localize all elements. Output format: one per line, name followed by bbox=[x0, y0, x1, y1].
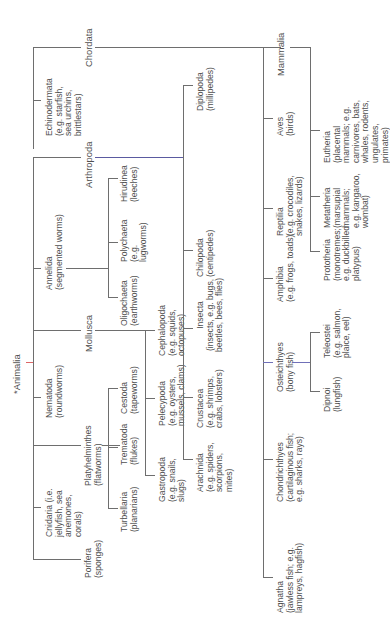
branch-pelecypoda bbox=[145, 398, 155, 399]
branch-diplopoda bbox=[183, 85, 193, 86]
osteichthyes-spine bbox=[310, 332, 311, 392]
label-metatheria: Metatheria (marsupial mammals; e.g. kang… bbox=[323, 173, 371, 228]
label-chondrichthyes: Chondrichthyes (cartilaginous fish; e.g.… bbox=[276, 433, 305, 502]
branch-crustacea bbox=[183, 397, 193, 398]
arthropoda-stem bbox=[95, 157, 183, 158]
animalia-spine-2 bbox=[33, 157, 34, 560]
platyhelminthes-stem bbox=[102, 445, 120, 446]
label-dipnoi: Dipnoi (lungfish) bbox=[323, 377, 342, 412]
branch-chilopoda bbox=[183, 250, 193, 251]
branch-eutheria bbox=[310, 130, 320, 131]
branch-insecta bbox=[183, 328, 193, 329]
branch-arachnida bbox=[183, 459, 193, 460]
animalia-spine bbox=[33, 47, 34, 149]
branch-arthropoda bbox=[33, 157, 81, 158]
label-aves: Aves (birds) bbox=[276, 112, 295, 136]
branch-polychaeta bbox=[108, 242, 118, 243]
label-mammalia: Mammalia bbox=[276, 33, 286, 76]
label-diplopoda: Diplopoda (millipedes) bbox=[196, 67, 215, 111]
label-chordata: Chordata bbox=[84, 28, 94, 67]
branch-oligochaeta bbox=[108, 297, 118, 298]
label-hirudinea: Hirudinea (leeches) bbox=[120, 165, 139, 202]
mollusca-stem bbox=[95, 330, 145, 331]
branch-annelida bbox=[33, 268, 41, 269]
arthropoda-spine bbox=[183, 85, 184, 460]
label-teleostei: Teleostei (e.g. salmon, plaice, eel) bbox=[323, 308, 352, 358]
branch-hirudinea bbox=[108, 178, 118, 179]
label-nematoda: Nematoda (roundworms) bbox=[45, 365, 64, 418]
label-osteichthyes: Osteichthyes (bony fish) bbox=[276, 342, 295, 392]
branch-nematoda bbox=[33, 397, 41, 398]
label-animalia: *Animalia bbox=[12, 354, 22, 394]
label-cestoda: Cestoda (tapeworms) bbox=[120, 366, 139, 414]
mammalia-stem bbox=[290, 47, 310, 48]
branch-prototheria bbox=[310, 251, 320, 252]
label-crustacea: Crustacea (e.g. shrimps, crabs, lobsters… bbox=[196, 369, 225, 428]
label-turbellaria: Turbellaria (planarians) bbox=[120, 487, 139, 532]
branch-trematoda bbox=[108, 447, 118, 448]
chordata-stem bbox=[95, 47, 263, 48]
branch-platyhelminthes bbox=[33, 445, 81, 446]
label-echinodermata: Echinodermata (e.g. starfish, sea urchin… bbox=[45, 78, 83, 136]
label-porifera: Porifera (sponges) bbox=[84, 540, 103, 578]
branch-agnatha bbox=[263, 577, 273, 578]
branch-cestoda bbox=[108, 388, 118, 389]
label-annelida: Annelida (segmented worms) bbox=[45, 214, 64, 290]
branch-cnidaria bbox=[33, 507, 41, 508]
annelida-spine bbox=[108, 178, 109, 298]
branch-turbellaria bbox=[108, 508, 118, 509]
label-mollusca: Mollusca bbox=[84, 315, 94, 352]
branch-cephalopoda bbox=[145, 330, 155, 331]
label-trematoda: Trematoda (flukes) bbox=[120, 424, 139, 465]
branch-osteichthyes bbox=[263, 362, 273, 363]
label-arthropoda: Arthropoda bbox=[84, 142, 94, 188]
branch-chordata bbox=[33, 47, 81, 48]
label-polychaeta: Polychaeta (e.g. lugworms) bbox=[120, 219, 149, 262]
chordata-spine bbox=[263, 47, 264, 578]
branch-amphibia bbox=[263, 278, 273, 279]
branch-aves bbox=[263, 118, 273, 119]
platyhelminthes-spine bbox=[108, 388, 109, 509]
branch-gastropoda bbox=[145, 475, 155, 476]
label-cnidaria: Cnidaria (i.e. jellyfish, sea anemones, … bbox=[45, 488, 83, 537]
annelida-stem bbox=[66, 268, 108, 269]
branch-metatheria bbox=[310, 196, 320, 197]
label-platyhelminthes: Platyhelminthes (flatworms) bbox=[84, 425, 103, 486]
label-amphibia: Amphibia (e.g. frogs, toads) bbox=[276, 235, 295, 302]
label-eutheria: Eutheria (placental mammals; e.g. carniv… bbox=[323, 100, 390, 163]
label-chilopoda: Chilopoda (centipedes) bbox=[196, 230, 215, 277]
branch-reptilia bbox=[263, 208, 273, 209]
branch-echinodermata bbox=[33, 100, 41, 101]
branch-dipnoi bbox=[310, 391, 320, 392]
branch-porifera bbox=[33, 559, 81, 560]
osteichthyes-stem bbox=[292, 362, 310, 363]
branch-teleostei bbox=[310, 332, 320, 333]
mollusca-spine bbox=[145, 330, 146, 476]
label-reptilia: Reptilia (e.g. crocodiles, snakes, lizar… bbox=[276, 175, 305, 236]
label-agnatha: Agnatha (jawless fish; e.g. lampreys, ha… bbox=[276, 543, 305, 613]
label-arachnida: Arachnida (e.g. spiders, scorpions, mite… bbox=[196, 442, 234, 492]
branch-mollusca bbox=[33, 330, 81, 331]
mammalia-spine bbox=[310, 47, 311, 252]
label-gastropoda: Gastropoda (e.g. snails, slugs) bbox=[158, 457, 187, 502]
label-insecta: Insecta (insects, e.g. bugs, beetles, be… bbox=[196, 278, 225, 352]
branch-chondrichthyes bbox=[263, 459, 273, 460]
label-prototheria: Prototheria (monotremes; e.g. duckbilled… bbox=[323, 226, 361, 281]
label-oligochaeta: Oligochaeta (earthworms) bbox=[120, 275, 139, 326]
